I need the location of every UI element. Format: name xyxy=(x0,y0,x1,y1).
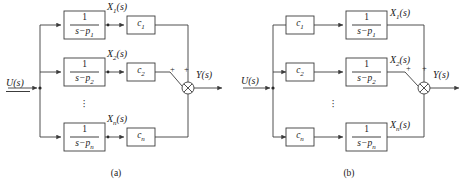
tf-denominator-a-n: s−pn xyxy=(64,139,105,151)
state-label-a-1: X1(s) xyxy=(107,2,127,15)
branch-ellipsis-a: ··· xyxy=(77,99,91,108)
sum-sign-b-left: + xyxy=(406,64,411,73)
gain-label-a-n: cn xyxy=(127,131,155,143)
tf-denominator-b-2: s−p2 xyxy=(346,74,387,86)
tap-dot-a-n xyxy=(107,136,110,139)
sum-sign-a-top: + xyxy=(184,65,189,74)
tf-numerator-a-1: 1 xyxy=(64,13,105,23)
junction-dot-b xyxy=(271,86,274,89)
branch-ellipsis-b: ··· xyxy=(326,99,340,108)
wire-a-b2-out xyxy=(155,72,182,86)
junction-dot-a xyxy=(38,86,41,89)
sum-sign-b-top: + xyxy=(422,64,427,73)
tf-denominator-b-n: s−pn xyxy=(346,139,387,151)
gain-label-a-1: c1 xyxy=(127,19,155,31)
figure-root: U(s) Y(s) 1 s−p1 X1(s) c1 1 s−p2 X2(s) c… xyxy=(0,0,465,189)
state-label-b-n: Xn(s) xyxy=(390,120,410,133)
tf-numerator-a-2: 1 xyxy=(64,60,105,70)
output-label-b: Y(s) xyxy=(433,70,449,80)
caption-panel-a: (a) xyxy=(0,168,232,178)
gain-label-b-1: c1 xyxy=(286,19,314,31)
input-label-b: U(s) xyxy=(241,76,259,86)
state-label-a-2: X2(s) xyxy=(107,49,127,62)
wire-b-b2-out xyxy=(387,72,418,86)
gain-label-b-n: cn xyxy=(286,131,314,143)
sum-sign-a-left: + xyxy=(170,65,175,74)
tf-denominator-b-1: s−p1 xyxy=(346,27,387,39)
tf-numerator-b-n: 1 xyxy=(346,125,387,135)
tf-numerator-a-n: 1 xyxy=(64,125,105,135)
wire-a-bn-out xyxy=(155,94,188,137)
output-label-a: Y(s) xyxy=(196,70,212,80)
panel-a-schematic xyxy=(0,0,232,165)
tap-dot-a-1 xyxy=(107,24,110,27)
block-diagram-panel-b: U(s) Y(s) c1 1 s−p1 X1(s) c2 1 s−p2 X2(s… xyxy=(233,0,465,189)
caption-panel-b: (b) xyxy=(233,168,465,178)
gain-label-b-2: c2 xyxy=(286,66,314,78)
tf-denominator-a-1: s−p1 xyxy=(64,27,105,39)
gain-label-a-2: c2 xyxy=(127,66,155,78)
tf-denominator-a-2: s−p2 xyxy=(64,74,105,86)
tf-numerator-b-2: 1 xyxy=(346,60,387,70)
state-label-a-n: Xn(s) xyxy=(107,114,127,127)
tap-dot-a-2 xyxy=(107,71,110,74)
input-label-a: U(s) xyxy=(6,78,24,88)
state-label-b-1: X1(s) xyxy=(390,8,410,21)
block-diagram-panel-a: U(s) Y(s) 1 s−p1 X1(s) c1 1 s−p2 X2(s) c… xyxy=(0,0,232,189)
input-label-underline-a xyxy=(6,91,30,92)
tf-numerator-b-1: 1 xyxy=(346,13,387,23)
